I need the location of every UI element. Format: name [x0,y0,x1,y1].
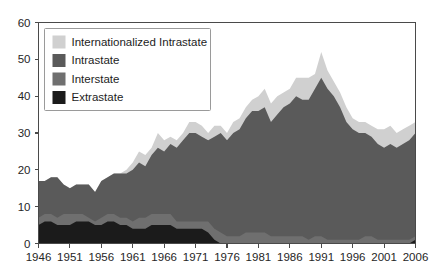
x-tick-label: 1946 [26,251,52,263]
x-tick-label: 1991 [308,251,334,263]
stacked-area-chart: 0102030405060 19461951195619611966197119… [0,0,430,275]
chart-container: 0102030405060 19461951195619611966197119… [0,0,430,275]
chart-legend: Internationalized IntrastateIntrastateIn… [45,29,211,111]
x-tick-label: 1961 [120,251,146,263]
legend-label-interstate: Interstate [72,73,120,85]
x-tick-label: 1986 [277,251,303,263]
x-tick-label: 1976 [214,251,240,263]
legend-label-intrastate: Intrastate [72,54,120,66]
y-tick-label: 50 [18,53,31,65]
legend-label-extrastate: Extrastate [72,91,124,103]
y-tick-label: 0 [24,238,30,250]
x-tick-label: 1956 [89,251,115,263]
legend-label-internationalized-intrastate: Internationalized Intrastate [72,36,208,48]
x-axis-ticks: 1946195119561961196619711976198119861991… [26,244,429,263]
x-tick-label: 1966 [151,251,177,263]
y-axis-ticks: 0102030405060 [18,17,39,250]
y-tick-label: 10 [18,201,31,213]
x-tick-label: 2001 [371,251,397,263]
x-tick-label: 1996 [340,251,366,263]
legend-swatch-interstate [53,73,66,86]
y-tick-label: 60 [18,17,31,29]
x-tick-label: 1971 [183,251,209,263]
legend-swatch-internationalized-intrastate [53,36,66,49]
y-tick-label: 30 [18,127,31,139]
legend-swatch-intrastate [53,54,66,67]
x-tick-label: 1951 [57,251,83,263]
x-tick-label: 1981 [246,251,272,263]
y-tick-label: 40 [18,90,31,102]
legend-swatch-extrastate [53,91,66,104]
x-tick-label: 2006 [403,251,429,263]
y-tick-label: 20 [18,164,31,176]
